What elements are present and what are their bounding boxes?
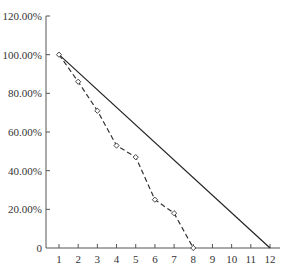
y-axis: 020.00%40.00%60.00%80.00%100.00%120.00% bbox=[3, 10, 50, 254]
x-tick-label: 1 bbox=[56, 253, 62, 265]
solid-series-line bbox=[59, 55, 270, 248]
x-tick-label: 2 bbox=[75, 253, 81, 265]
x-tick-label: 7 bbox=[171, 253, 177, 265]
line-chart: 020.00%40.00%60.00%80.00%100.00%120.00% … bbox=[0, 0, 287, 278]
diamond-marker-icon bbox=[191, 245, 196, 250]
series-group bbox=[56, 52, 270, 251]
y-tick-label: 20.00% bbox=[8, 203, 42, 215]
y-tick-label: 120.00% bbox=[3, 10, 42, 22]
diamond-marker-icon bbox=[171, 211, 176, 216]
x-tick-label: 6 bbox=[152, 253, 158, 265]
diamond-marker-icon bbox=[114, 143, 119, 148]
diamond-marker-icon bbox=[133, 155, 138, 160]
x-tick-label: 8 bbox=[191, 253, 197, 265]
x-axis: 123456789101112 bbox=[46, 244, 280, 265]
x-tick-label: 12 bbox=[265, 253, 276, 265]
y-tick-label: 40.00% bbox=[8, 165, 42, 177]
x-tick-label: 3 bbox=[95, 253, 101, 265]
x-tick-label: 5 bbox=[133, 253, 139, 265]
x-tick-label: 10 bbox=[226, 253, 238, 265]
x-tick-label: 9 bbox=[210, 253, 216, 265]
y-tick-label: 100.00% bbox=[3, 49, 42, 61]
y-tick-label: 60.00% bbox=[8, 126, 42, 138]
x-tick-label: 4 bbox=[114, 253, 120, 265]
y-tick-label: 80.00% bbox=[8, 87, 42, 99]
x-tick-label: 11 bbox=[246, 253, 257, 265]
y-tick-label: 0 bbox=[37, 242, 43, 254]
